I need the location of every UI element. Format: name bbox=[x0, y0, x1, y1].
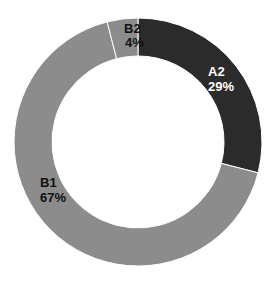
label-a2-name: A2 bbox=[208, 64, 225, 79]
label-a2-pct: 29% bbox=[208, 79, 234, 94]
label-b1-name: B1 bbox=[40, 175, 57, 190]
label-b1-pct: 67% bbox=[40, 190, 66, 205]
donut-chart: A2 29% B1 67% B2 4% bbox=[0, 0, 275, 288]
label-b2-name: B2 bbox=[124, 21, 141, 36]
slice-a2 bbox=[138, 18, 262, 173]
label-b2-pct: 4% bbox=[125, 35, 144, 50]
donut-slices bbox=[14, 18, 262, 266]
